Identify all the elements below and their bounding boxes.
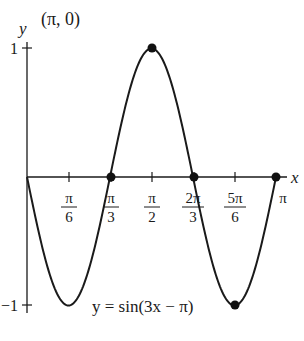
point-annotation: (π, 0) [41,9,80,30]
sine-graph: y (π, 0) 1 −1 x π 6 π 3 π 2 2π 3 5π 6 π … [0,0,304,341]
svg-text:3: 3 [107,209,115,225]
point-2pi3 [190,173,199,182]
tick-label-pi6: π 6 [61,190,77,225]
tick-label-2pi3: 2π 3 [182,190,204,225]
tick-label-5pi6: 5π 6 [224,190,246,225]
y-tick-label-neg1: −1 [1,297,18,314]
point-max [148,44,157,53]
svg-text:π: π [65,190,73,206]
point-pi3 [107,173,116,182]
svg-text:6: 6 [65,209,73,225]
svg-text:π: π [107,190,115,206]
svg-text:π: π [148,190,156,206]
svg-text:2π: 2π [185,190,201,206]
svg-text:2: 2 [148,209,156,225]
y-axis-label: y [17,19,27,38]
svg-text:5π: 5π [227,190,243,206]
equation-label: y = sin(3x − π) [92,297,193,316]
x-axis-label: x [290,168,299,187]
svg-text:3: 3 [189,209,197,225]
point-min [231,301,240,310]
y-tick-label-1: 1 [10,40,18,57]
tick-label-pi2: π 2 [144,190,160,225]
point-pi [272,173,281,182]
svg-text:6: 6 [231,209,239,225]
tick-label-pi: π [279,190,287,206]
